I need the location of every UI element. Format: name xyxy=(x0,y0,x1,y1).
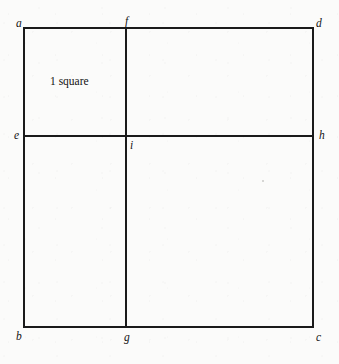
vertex-label-g: g xyxy=(124,332,130,344)
diagram-lines-layer xyxy=(0,0,339,364)
vertex-label-c: c xyxy=(316,332,321,344)
vertex-label-f: f xyxy=(125,16,128,28)
vertex-label-h: h xyxy=(319,130,325,142)
vertex-label-d: d xyxy=(316,18,322,30)
vertex-label-e: e xyxy=(14,130,19,142)
vertex-label-i: i xyxy=(130,140,133,152)
area-annotation-one-square: 1 square xyxy=(50,76,89,88)
vertex-label-a: a xyxy=(16,18,22,30)
scan-speck-artifact xyxy=(262,180,264,182)
figure-canvas: a f d e i h b g c 1 square xyxy=(0,0,339,364)
vertex-label-b: b xyxy=(16,331,22,343)
outer-square-path xyxy=(24,28,313,327)
